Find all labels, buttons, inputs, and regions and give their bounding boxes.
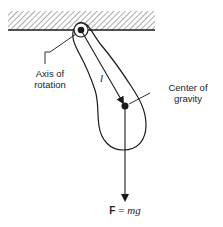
cog-label-line1: Center of [168, 82, 207, 93]
pendulum-diagram: l Axis of rotation Center of gravity F =… [0, 0, 223, 227]
axis-label-line2: rotation [34, 79, 66, 90]
axis-label-line1: Axis of [36, 68, 65, 79]
axis-leader-line [45, 34, 76, 64]
length-label: l [100, 72, 103, 84]
pendulum-body [73, 23, 146, 150]
force-label: F = mg [109, 204, 141, 216]
cog-leader-line [129, 93, 150, 104]
force-equals: = [115, 204, 127, 216]
length-arrow [81, 30, 122, 101]
cog-label-line2: gravity [174, 93, 202, 104]
force-mg: mg [127, 204, 141, 216]
